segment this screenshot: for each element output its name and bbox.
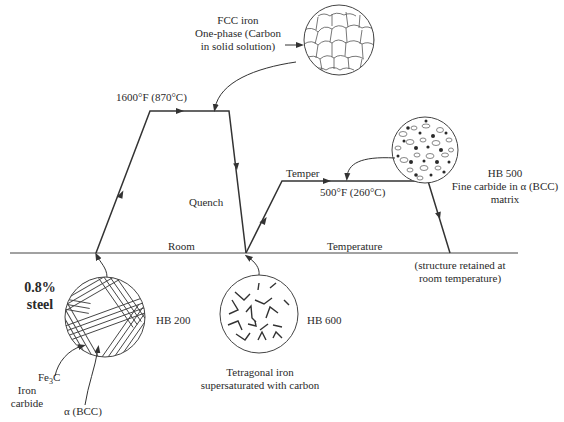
temper-temperature-label: 500°F (260°C): [320, 186, 385, 199]
direction-arrow-icons: [117, 108, 443, 225]
temperature-label: Temperature: [327, 240, 382, 253]
fcc-grain-structure-icon: [304, 5, 374, 75]
heat-treatment-diagram: [0, 0, 564, 422]
iron-carbide-label: Iron carbide: [4, 384, 50, 410]
material-label: 0.8% steel: [22, 279, 58, 313]
martensite-line-2: supersaturated with carbon: [190, 379, 330, 392]
alpha-pointer: [85, 349, 98, 405]
austenitize-path: [96, 111, 246, 253]
fcc-line-3: in solid solution): [183, 40, 293, 53]
tempered-line-1: Fine carbide in α (BCC): [440, 180, 564, 193]
tempered-pointer-curve: [347, 158, 395, 177]
alpha-bcc-label: α (BCC): [64, 405, 102, 418]
tempered-structure-label: HB 500 Fine carbide in α (BCC) matrix: [440, 167, 564, 206]
quench-label: Quench: [189, 196, 223, 209]
room-label: Room: [168, 240, 195, 253]
retained-line-2: room temperature): [410, 272, 510, 285]
carbon-percent: 0.8%: [22, 279, 58, 296]
fe3c-c: C: [53, 371, 60, 383]
iron-carbide-line-2: carbide: [4, 397, 50, 410]
retained-structure-note: (structure retained at room temperature): [410, 259, 510, 285]
fcc-pointer-curve: [215, 62, 296, 108]
martensite-structure-label: Tetragonal iron supersaturated with carb…: [190, 366, 330, 392]
hb600-label: HB 600: [307, 314, 342, 327]
hb200-label: HB 200: [156, 314, 191, 327]
pearlite-pointer-up: [97, 256, 107, 277]
martensite-needle-structure-icon: [220, 275, 298, 353]
austenitize-temperature-label: 1600°F (870°C): [116, 91, 187, 104]
steel-word: steel: [22, 296, 58, 313]
fcc-structure-label: FCC iron One-phase (Carbon in solid solu…: [183, 14, 293, 53]
martensite-pointer-up: [248, 257, 259, 275]
fcc-line-2: One-phase (Carbon: [183, 27, 293, 40]
fe3c-fe: Fe: [38, 371, 49, 383]
fcc-line-1: FCC iron: [183, 14, 293, 27]
temper-label: Temper: [286, 167, 319, 180]
martensite-line-1: Tetragonal iron: [190, 366, 330, 379]
pearlite-lamellar-structure-icon: [51, 267, 151, 366]
retained-line-1: (structure retained at: [410, 259, 510, 272]
tempered-line-2: matrix: [440, 193, 564, 206]
hb500-label: HB 500: [440, 167, 564, 180]
iron-carbide-line-1: Iron: [4, 384, 50, 397]
